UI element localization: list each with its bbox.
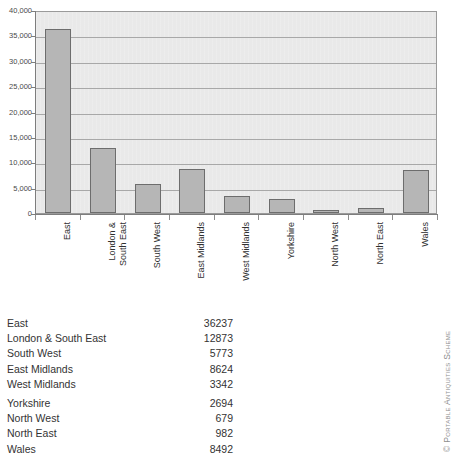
x-axis-tick-mark [303, 215, 304, 220]
x-axis-tick-label: Wales [420, 222, 431, 308]
table-row-value: 5773 [210, 346, 233, 361]
bar-slot [393, 12, 438, 213]
bar-slot [81, 12, 126, 213]
bar[interactable] [45, 29, 71, 213]
bar[interactable] [135, 184, 161, 213]
table-row: East Midlands8624 [7, 362, 233, 377]
y-axis-tick-mark [31, 62, 35, 63]
x-axis-tick-mark [348, 215, 349, 220]
y-axis-tick-label: 5,000 [0, 185, 32, 193]
table-row-label: South West [7, 346, 61, 361]
bar-slot [304, 12, 349, 213]
table-row-value: 12873 [204, 331, 233, 346]
x-axis-tick-label: South West [152, 222, 163, 308]
copyright-credit: © Portable Antiquities Scheme [442, 331, 452, 452]
table-row-value: 8492 [210, 442, 233, 456]
x-axis-tick-label: East [62, 222, 73, 308]
y-axis-tick-mark [31, 138, 35, 139]
table-row-label: East Midlands [7, 362, 73, 377]
x-axis-tick-mark [437, 215, 438, 220]
bar-slot [349, 12, 394, 213]
x-axis-tick-mark [35, 215, 36, 220]
x-axis-tick-mark [80, 215, 81, 220]
bar[interactable] [403, 170, 429, 213]
x-axis-tick-mark [214, 215, 215, 220]
y-axis-tick-mark [31, 189, 35, 190]
bar-chart-figure: 05,00010,00015,00020,00025,00030,00035,0… [0, 0, 454, 310]
table-row-label: North East [7, 426, 57, 441]
x-axis-tick-label: London & South East [107, 222, 128, 308]
y-axis-tick-label: 0 [0, 210, 32, 218]
bar[interactable] [358, 208, 384, 213]
bar[interactable] [269, 199, 295, 213]
data-table: East36237London & South East12873South W… [7, 316, 233, 456]
bar[interactable] [179, 169, 205, 213]
bar[interactable] [224, 196, 250, 213]
x-axis-tick-label: East Midlands [196, 222, 207, 308]
table-row: West Midlands3342 [7, 377, 233, 392]
table-row-label: East [7, 316, 28, 331]
bar[interactable] [313, 210, 339, 213]
x-axis-tick-label: North East [375, 222, 386, 308]
bar-slot [36, 12, 81, 213]
table-row-value: 8624 [210, 362, 233, 377]
table-row: Yorkshire2694 [7, 396, 233, 411]
y-axis-tick-mark [31, 163, 35, 164]
y-axis-tick-label: 10,000 [0, 159, 32, 167]
bars-layer [36, 12, 436, 213]
table-row: London & South East12873 [7, 331, 233, 346]
table-row-value: 3342 [210, 377, 233, 392]
y-axis-tick-mark [31, 36, 35, 37]
y-axis-tick-mark [31, 113, 35, 114]
table-row-label: West Midlands [7, 377, 76, 392]
table-row-value: 2694 [210, 396, 233, 411]
x-axis-tick-mark [392, 215, 393, 220]
bar[interactable] [90, 148, 116, 213]
x-axis-tick-label: West Midlands [241, 222, 252, 308]
x-axis-tick-mark [169, 215, 170, 220]
table-row: South West5773 [7, 346, 233, 361]
y-axis-tick-label: 35,000 [0, 32, 32, 40]
x-axis-tick-mark [124, 215, 125, 220]
bar-slot [170, 12, 215, 213]
y-axis-tick-label: 25,000 [0, 83, 32, 91]
bar-slot [259, 12, 304, 213]
table-row-value: 679 [215, 411, 233, 426]
table-row-label: London & South East [7, 331, 106, 346]
bar-slot [125, 12, 170, 213]
y-axis-line [35, 11, 36, 215]
table-row-value: 36237 [204, 316, 233, 331]
x-axis-tick-mark [258, 215, 259, 220]
table-row-value: 982 [215, 426, 233, 441]
plot-area [35, 11, 437, 214]
y-axis-tick-label: 15,000 [0, 134, 32, 142]
x-axis-tick-label: Yorkshire [286, 222, 297, 308]
table-row: East36237 [7, 316, 233, 331]
table-row: North East982 [7, 426, 233, 441]
table-row-label: Wales [7, 442, 36, 456]
x-axis-tick-label: North West [330, 222, 341, 308]
bar-slot [215, 12, 260, 213]
y-axis-tick-label: 20,000 [0, 109, 32, 117]
y-axis-tick-mark [31, 11, 35, 12]
y-axis-tick-mark [31, 87, 35, 88]
y-axis-tick-label: 30,000 [0, 58, 32, 66]
table-row-label: North West [7, 411, 59, 426]
table-row-label: Yorkshire [7, 396, 50, 411]
x-axis-line [35, 214, 438, 215]
table-row: North West679 [7, 411, 233, 426]
table-row: Wales8492 [7, 442, 233, 456]
y-axis-tick-label: 40,000 [0, 7, 32, 15]
